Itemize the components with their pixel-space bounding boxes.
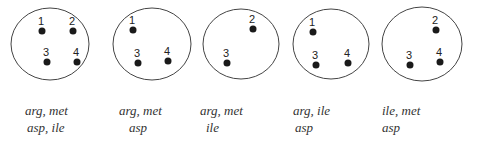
label-4: arg, ile asp	[293, 102, 330, 136]
circle-diagram-4: 134	[293, 9, 369, 79]
pin-dot	[130, 27, 137, 34]
label-line: arg, met	[25, 102, 68, 119]
label-line: asp	[293, 119, 330, 136]
pin-dot	[165, 58, 172, 65]
pin-number: 4	[164, 45, 170, 57]
pin-number: 2	[69, 15, 75, 27]
label-line: asp, ile	[25, 119, 68, 136]
pin-number: 1	[38, 15, 44, 27]
pin-number: 3	[134, 47, 140, 59]
label-line: arg, met	[119, 102, 162, 119]
label-line: arg, ile	[293, 102, 330, 119]
label-line: arg, met	[200, 102, 243, 119]
pin-dot	[313, 62, 320, 69]
label-line: ile, met	[382, 102, 420, 119]
pin-dot	[224, 60, 231, 67]
circle-outline	[293, 9, 369, 79]
circle-outline	[203, 9, 279, 79]
pin-number: 3	[43, 46, 49, 58]
label-line: asp	[119, 119, 162, 136]
pin-dot	[44, 59, 51, 66]
circle-diagram-1: 1234	[11, 8, 89, 80]
pin-dot	[250, 26, 257, 33]
circle-outline	[11, 8, 89, 80]
pin-number: 3	[312, 49, 318, 61]
label-line: asp	[382, 119, 420, 136]
pin-number: 4	[73, 46, 79, 58]
pin-dot	[407, 62, 414, 69]
label-2: arg, met asp	[119, 102, 162, 136]
pin-number: 3	[223, 47, 229, 59]
pin-dot	[70, 28, 77, 35]
pin-dot	[74, 59, 81, 66]
pin-dot	[433, 27, 440, 34]
pin-number: 3	[406, 49, 412, 61]
label-1: arg, met asp, ile	[25, 102, 68, 136]
pin-number: 4	[344, 47, 350, 59]
label-3: arg, met ile	[200, 102, 243, 136]
circle-diagram-3: 23	[203, 9, 279, 79]
circle-diagram-5: 234	[382, 7, 462, 81]
pin-dot	[39, 28, 46, 35]
pin-dot	[310, 29, 317, 36]
pin-number: 1	[129, 14, 135, 26]
circle-diagram-2: 134	[113, 8, 191, 80]
pin-dot	[437, 59, 444, 66]
label-5: ile, met asp	[382, 102, 420, 136]
pin-number: 2	[249, 13, 255, 25]
label-line: ile	[200, 119, 243, 136]
pin-number: 1	[309, 16, 315, 28]
pin-number: 4	[436, 46, 442, 58]
circle-outline	[382, 7, 462, 81]
pin-dot	[345, 60, 352, 67]
pin-number: 2	[432, 14, 438, 26]
pin-dot	[135, 60, 142, 67]
circle-outline	[113, 8, 191, 80]
